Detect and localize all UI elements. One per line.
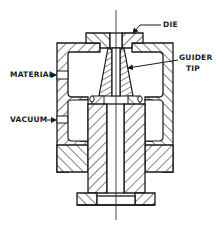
die-label: DIE	[163, 21, 178, 29]
material-port	[57, 71, 68, 79]
die-leader	[133, 25, 161, 33]
material-label: MATERIAL	[10, 71, 54, 79]
guider-tip-label-line1: GUIDER	[179, 54, 212, 62]
vacuum-port	[57, 116, 68, 123]
vacuum-label: VACUUM	[10, 116, 47, 124]
guider-stem	[88, 104, 145, 193]
guider-tip-label-line2: TIP	[186, 65, 200, 73]
